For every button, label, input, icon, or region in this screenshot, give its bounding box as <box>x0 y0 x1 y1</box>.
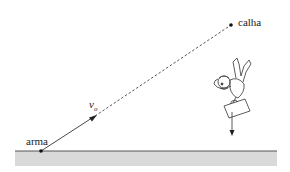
gun-point <box>39 149 43 153</box>
velocity-subscript: o <box>94 105 98 113</box>
gun-label: arma <box>26 136 48 147</box>
falling-man-icon <box>214 58 251 118</box>
velocity-vector <box>41 116 95 151</box>
line-of-sight <box>95 25 231 116</box>
projectile-diagram: arma calha vo <box>0 0 290 172</box>
ground <box>15 151 277 166</box>
gutter-point <box>229 23 233 27</box>
gutter-label: calha <box>238 17 261 28</box>
gravity-arrow-head-icon <box>230 130 235 136</box>
velocity-label: vo <box>89 99 97 113</box>
